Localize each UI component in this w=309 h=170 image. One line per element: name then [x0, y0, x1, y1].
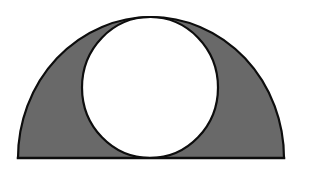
- geometry-figure: [0, 0, 309, 170]
